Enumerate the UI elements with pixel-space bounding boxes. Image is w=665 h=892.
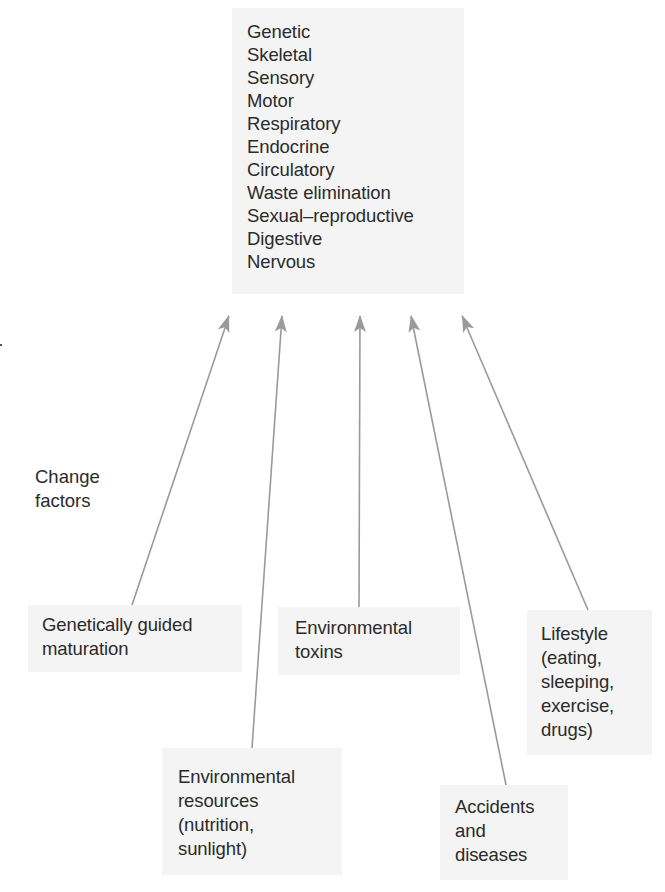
system-respiratory: Respiratory xyxy=(247,112,414,135)
system-sexual-reproductive: Sexual–reproductive xyxy=(247,204,414,227)
factor-line: drugs) xyxy=(541,718,614,742)
arrowhead-icon xyxy=(354,315,366,332)
change-factors-line2: factors xyxy=(35,489,100,513)
arrow-environmental-toxins xyxy=(359,316,360,607)
system-waste-elimination: Waste elimination xyxy=(247,181,414,204)
factor-line: (eating, xyxy=(541,646,614,670)
factor-text-lifestyle: Lifestyle (eating, sleeping, exercise, d… xyxy=(541,622,614,742)
system-skeletal: Skeletal xyxy=(247,43,414,66)
change-factors-line1: Change xyxy=(35,465,100,489)
factor-text-accidents-diseases: Accidents and diseases xyxy=(455,795,534,867)
factor-line: and xyxy=(455,819,534,843)
factor-line: Accidents xyxy=(455,795,534,819)
system-sensory: Sensory xyxy=(247,66,414,89)
factor-line: exercise, xyxy=(541,694,614,718)
system-endocrine: Endocrine xyxy=(247,135,414,158)
arrowhead-icon xyxy=(405,314,420,333)
factor-line: Genetically guided xyxy=(42,613,192,637)
factor-line: Environmental xyxy=(178,765,295,789)
body-systems-list: Genetic Skeletal Sensory Motor Respirato… xyxy=(247,20,414,273)
factor-line: toxins xyxy=(295,640,412,664)
system-motor: Motor xyxy=(247,89,414,112)
arrow-genetic-maturation xyxy=(132,316,229,605)
factor-line: (nutrition, xyxy=(178,813,295,837)
stray-dot xyxy=(0,344,2,346)
factor-line: sleeping, xyxy=(541,670,614,694)
arrow-environmental-resources xyxy=(252,316,282,748)
system-genetic: Genetic xyxy=(247,20,414,43)
factor-line: maturation xyxy=(42,637,192,661)
arrowhead-icon xyxy=(456,313,474,333)
factor-text-genetic-maturation: Genetically guided maturation xyxy=(42,613,192,661)
factor-line: Lifestyle xyxy=(541,622,614,646)
system-nervous: Nervous xyxy=(247,250,414,273)
factor-line: sunlight) xyxy=(178,837,295,861)
factor-text-environmental-toxins: Environmental toxins xyxy=(295,616,412,664)
factor-line: diseases xyxy=(455,843,534,867)
arrowhead-icon xyxy=(218,313,235,333)
factor-text-environmental-resources: Environmental resources (nutrition, sunl… xyxy=(178,765,295,861)
factor-line: resources xyxy=(178,789,295,813)
change-factors-label: Change factors xyxy=(35,465,100,513)
arrow-accidents-diseases xyxy=(411,316,506,785)
arrow-lifestyle xyxy=(462,316,588,610)
system-circulatory: Circulatory xyxy=(247,158,414,181)
arrowhead-icon xyxy=(275,315,288,333)
factor-line: Environmental xyxy=(295,616,412,640)
system-digestive: Digestive xyxy=(247,227,414,250)
